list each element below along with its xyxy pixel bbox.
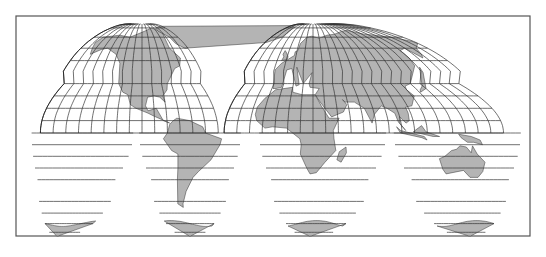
world-map bbox=[0, 0, 546, 257]
land-antarctica bbox=[288, 221, 346, 236]
land-australia bbox=[439, 146, 485, 178]
land-antarctica bbox=[164, 221, 214, 236]
land-madagascar bbox=[337, 147, 347, 162]
land-new-guinea bbox=[459, 134, 483, 145]
land-antarctica bbox=[437, 221, 494, 236]
graticule bbox=[32, 24, 521, 232]
land-britain bbox=[282, 51, 289, 61]
